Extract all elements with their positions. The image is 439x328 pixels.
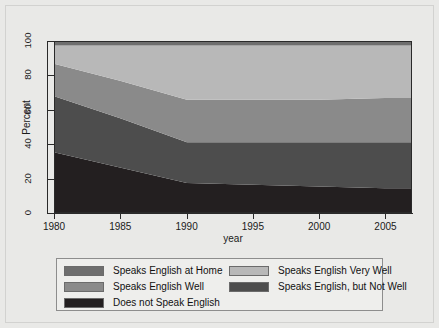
- legend-label: Speaks English, but Not Well: [278, 281, 407, 292]
- y-tick-label-60: 60: [22, 96, 33, 122]
- legend-swatch-icon: [229, 282, 269, 292]
- y-tick-label-20: 20: [22, 165, 33, 191]
- plot-area: [54, 41, 412, 213]
- legend-item[interactable]: Speaks English Very Well: [229, 263, 407, 278]
- chart-legend: Speaks English at HomeSpeaks English Wel…: [56, 258, 383, 311]
- legend-label: Does not Speak English: [113, 297, 220, 308]
- y-tick-label-100: 100: [22, 28, 33, 54]
- area-band-4: [55, 42, 411, 45]
- legend-item[interactable]: Speaks English, but Not Well: [229, 279, 407, 294]
- y-tick-100: [47, 41, 54, 42]
- x-tick-label-1980: 1980: [34, 221, 74, 232]
- y-tick-60: [47, 110, 54, 111]
- chart-page: Percent 020406080100 year 19801985199019…: [0, 0, 439, 328]
- y-tick-label-80: 80: [22, 62, 33, 88]
- x-tick-label-2000: 2000: [299, 221, 339, 232]
- y-tick-80: [47, 75, 54, 76]
- legend-swatch-icon: [64, 298, 104, 308]
- legend-label: Speaks English Well: [113, 281, 204, 292]
- legend-swatch-icon: [64, 266, 104, 276]
- x-tick-1985: [120, 213, 121, 219]
- legend-swatch-icon: [64, 282, 104, 292]
- x-tick-label-1985: 1985: [100, 221, 140, 232]
- x-tick-label-2005: 2005: [365, 221, 405, 232]
- stacked-area-series: [55, 42, 411, 212]
- x-axis-line: [47, 213, 413, 214]
- y-tick-label-0: 0: [22, 200, 33, 226]
- y-axis-line: [47, 41, 48, 214]
- legend-item[interactable]: Does not Speak English: [64, 295, 223, 310]
- legend-item[interactable]: Speaks English at Home: [64, 263, 223, 278]
- legend-label: Speaks English Very Well: [278, 265, 392, 276]
- legend-column-left: Speaks English at HomeSpeaks English Wel…: [64, 263, 223, 311]
- legend-swatch-icon: [229, 266, 269, 276]
- legend-item[interactable]: Speaks English Well: [64, 279, 223, 294]
- x-tick-1995: [253, 213, 254, 219]
- x-tick-1990: [187, 213, 188, 219]
- legend-column-right: Speaks English Very WellSpeaks English, …: [229, 263, 407, 295]
- y-tick-20: [47, 179, 54, 180]
- x-tick-label-1995: 1995: [233, 221, 273, 232]
- x-axis-title: year: [54, 233, 412, 244]
- x-tick-2005: [385, 213, 386, 219]
- x-tick-2000: [319, 213, 320, 219]
- legend-label: Speaks English at Home: [113, 265, 223, 276]
- y-tick-label-40: 40: [22, 131, 33, 157]
- plot-frame: [54, 41, 412, 213]
- x-tick-label-1990: 1990: [167, 221, 207, 232]
- x-tick-1980: [54, 213, 55, 219]
- y-tick-40: [47, 144, 54, 145]
